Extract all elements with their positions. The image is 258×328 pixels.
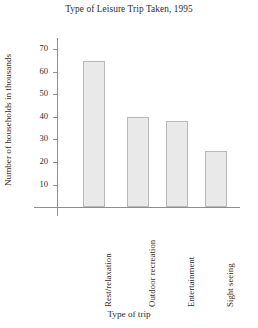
y-axis-line [57,38,58,216]
x-category-label: Entertainment [184,207,198,307]
y-tick-label: 40 [39,111,48,122]
x-axis-title: Type of trip [0,309,258,319]
plot-area: 10203040506070 [57,38,240,207]
y-tick-label: 50 [39,88,48,99]
x-category-label: Rest/relaxation [101,207,115,307]
y-tick-label: 60 [39,66,48,77]
y-tick-label: 30 [39,133,48,144]
y-tick: 20 [53,162,58,163]
y-tick: 60 [53,72,58,73]
x-axis-line [34,207,240,208]
y-tick-label: 10 [39,179,48,190]
bar [205,151,227,207]
y-tick-label: 20 [39,156,48,167]
x-category-label: Sight seeing [223,207,237,307]
bar [127,117,149,207]
y-tick: 50 [53,94,58,95]
x-category-label: Outdoor recreation [145,207,159,307]
bar [166,121,188,207]
bar [83,61,105,208]
chart-title: Type of Leisure Trip Taken, 1995 [0,4,258,14]
y-axis-title: Number of households in thousands [0,30,16,210]
y-tick: 40 [53,117,58,118]
y-tick-label: 70 [39,43,48,54]
bar-chart: Type of Leisure Trip Taken, 1995 Number … [0,0,258,328]
y-tick: 70 [53,49,58,50]
y-tick: 30 [53,139,58,140]
y-tick: 10 [53,185,58,186]
